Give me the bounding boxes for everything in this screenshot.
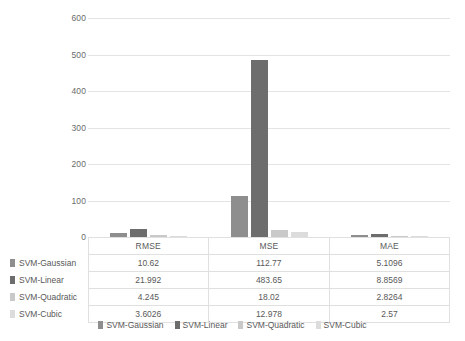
y-tick-label-500: 500 bbox=[52, 50, 86, 59]
bar-chart-with-data-table: 600 500 400 300 200 100 0 bbox=[0, 0, 465, 341]
table-row-label: SVM-Cubic bbox=[19, 310, 62, 319]
bar-mse-svm-linear bbox=[251, 60, 268, 237]
legend-item-svm-linear: SVM-Linear bbox=[175, 320, 228, 330]
table-row-header-svm-quadratic: SVM-Quadratic bbox=[6, 289, 88, 306]
chart-legend: SVM-Gaussian SVM-Linear SVM-Quadratic SV… bbox=[0, 320, 465, 330]
legend-swatch-icon-svm-cubic bbox=[316, 321, 321, 329]
legend-label: SVM-Cubic bbox=[324, 320, 367, 330]
legend-swatch-icon-svm-linear bbox=[175, 321, 180, 329]
table-row: SVM-Quadratic 4.245 18.02 2.8264 bbox=[6, 289, 450, 306]
legend-label: SVM-Gaussian bbox=[106, 320, 163, 330]
legend-label: SVM-Linear bbox=[183, 320, 228, 330]
table-row-label: SVM-Gaussian bbox=[19, 259, 76, 268]
legend-item-svm-quadratic: SVM-Quadratic bbox=[238, 320, 304, 330]
y-tick-label-200: 200 bbox=[52, 160, 86, 169]
table-row: SVM-Gaussian 10.62 112.77 5.1096 bbox=[6, 255, 450, 272]
y-tick-label-600: 600 bbox=[52, 14, 86, 23]
table-column-header-rmse: RMSE bbox=[88, 238, 209, 255]
table-corner-cell bbox=[6, 238, 88, 255]
table-row: SVM-Linear 21.992 483.65 8.8569 bbox=[6, 272, 450, 289]
series-swatch-icon-svm-gaussian bbox=[10, 259, 15, 267]
table-cell-svm-linear-mae: 8.8569 bbox=[329, 272, 450, 289]
y-tick-label-400: 400 bbox=[52, 87, 86, 96]
table-cell-svm-gaussian-rmse: 10.62 bbox=[88, 255, 209, 272]
table-row-label: SVM-Linear bbox=[19, 276, 64, 285]
table-cell-svm-linear-mse: 483.65 bbox=[209, 272, 330, 289]
legend-swatch-icon-svm-quadratic bbox=[238, 321, 243, 329]
table-column-header-mse: MSE bbox=[209, 238, 330, 255]
bar-groups bbox=[88, 18, 450, 237]
bar-group-mse bbox=[209, 18, 330, 237]
bar-rmse-svm-linear bbox=[130, 229, 147, 237]
table-row-label: SVM-Quadratic bbox=[19, 293, 77, 302]
table-cell-svm-quadratic-mae: 2.8264 bbox=[329, 289, 450, 306]
series-swatch-icon-svm-cubic bbox=[10, 310, 15, 318]
table-row-header-svm-gaussian: SVM-Gaussian bbox=[6, 255, 88, 272]
table-cell-svm-gaussian-mae: 5.1096 bbox=[329, 255, 450, 272]
bar-mse-svm-gaussian bbox=[231, 196, 248, 237]
legend-item-svm-cubic: SVM-Cubic bbox=[316, 320, 367, 330]
table-cell-svm-gaussian-mse: 112.77 bbox=[209, 255, 330, 272]
plot-area bbox=[88, 18, 450, 237]
table-cell-svm-quadratic-mse: 18.02 bbox=[209, 289, 330, 306]
plot-wrapper: 600 500 400 300 200 100 0 bbox=[0, 0, 465, 240]
legend-label: SVM-Quadratic bbox=[246, 320, 304, 330]
y-tick-label-300: 300 bbox=[52, 123, 86, 132]
y-axis: 600 500 400 300 200 100 0 bbox=[52, 0, 86, 240]
series-swatch-icon-svm-linear bbox=[10, 276, 15, 284]
table-cell-svm-quadratic-rmse: 4.245 bbox=[88, 289, 209, 306]
table-row-header-svm-linear: SVM-Linear bbox=[6, 272, 88, 289]
table-header-row: RMSE MSE MAE bbox=[6, 238, 450, 255]
table-cell-svm-linear-rmse: 21.992 bbox=[88, 272, 209, 289]
bar-group-mae bbox=[329, 18, 450, 237]
bar-group-rmse bbox=[88, 18, 209, 237]
legend-swatch-icon-svm-gaussian bbox=[98, 321, 103, 329]
y-tick-label-100: 100 bbox=[52, 196, 86, 205]
series-swatch-icon-svm-quadratic bbox=[10, 293, 15, 301]
legend-item-svm-gaussian: SVM-Gaussian bbox=[98, 320, 163, 330]
table-column-header-mae: MAE bbox=[329, 238, 450, 255]
chart-data-table: RMSE MSE MAE SVM-Gaussian 10.62 112.77 5… bbox=[6, 237, 450, 323]
